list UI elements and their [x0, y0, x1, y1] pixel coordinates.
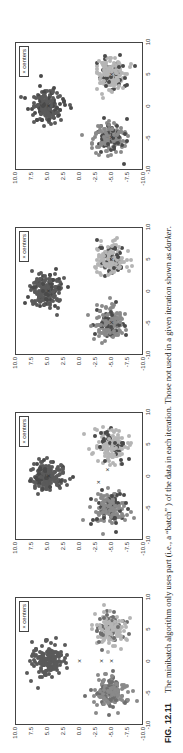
data-point — [96, 673, 100, 677]
data-point — [124, 501, 128, 505]
data-point — [119, 637, 123, 641]
data-point — [39, 74, 43, 78]
y-tick-label: 10.0 — [12, 727, 18, 745]
data-point — [81, 518, 85, 522]
data-point — [124, 625, 128, 629]
data-point — [28, 479, 32, 483]
data-point — [102, 261, 106, 265]
x-tick-label: -5 — [145, 313, 151, 333]
x-tick-label: 10 — [145, 32, 151, 52]
data-point — [58, 663, 62, 667]
y-tick-label: -7.5 — [124, 727, 130, 745]
legend-label: centers — [21, 234, 27, 254]
data-point — [52, 294, 56, 298]
data-point — [99, 431, 103, 435]
data-point — [97, 334, 101, 338]
data-point — [116, 711, 120, 715]
data-point — [118, 53, 122, 57]
data-point — [132, 516, 136, 520]
data-point — [122, 629, 126, 633]
data-point — [92, 337, 96, 341]
legend-marker-icon: × — [21, 69, 27, 74]
data-point — [63, 656, 67, 660]
data-point — [94, 711, 98, 715]
data-point — [44, 662, 48, 666]
data-point — [112, 266, 116, 270]
data-point — [69, 106, 73, 110]
center-marker-icon: × — [107, 659, 114, 663]
data-point — [98, 445, 102, 449]
data-point — [110, 244, 114, 248]
data-point — [89, 324, 93, 328]
data-point — [62, 276, 66, 280]
data-point — [71, 475, 75, 479]
x-tick-label: 0 — [145, 651, 151, 671]
data-point — [112, 121, 116, 125]
data-point — [57, 299, 61, 303]
y-tick-label: 10.0 — [12, 542, 18, 560]
y-tick-label: 0.0 — [76, 542, 82, 560]
data-point — [117, 316, 121, 320]
x-tick-label: 0 — [145, 96, 151, 116]
y-tick-label: 2.5 — [60, 542, 66, 560]
data-point — [124, 333, 128, 337]
data-point — [88, 505, 92, 509]
data-point — [116, 625, 120, 629]
data-point — [40, 118, 44, 122]
y-tick-label: -5.0 — [108, 172, 114, 190]
data-point — [109, 56, 113, 60]
data-point — [95, 67, 99, 71]
y-tick-label: -7.5 — [124, 357, 130, 375]
data-point — [120, 462, 124, 466]
center-marker-icon: × — [44, 289, 51, 293]
center-marker-icon: × — [107, 320, 114, 324]
data-point — [53, 643, 57, 647]
data-point — [93, 434, 97, 438]
data-point — [133, 64, 137, 68]
data-point — [110, 127, 114, 131]
data-point — [95, 87, 99, 91]
data-point — [23, 96, 27, 100]
data-point — [44, 638, 48, 642]
y-tick-label: 0.0 — [76, 172, 82, 190]
caption-end: . — [163, 226, 173, 228]
figure: 10.07.55.02.50.0-2.5-5.0-7.5-10.0-10-505… — [0, 0, 183, 753]
data-point — [58, 486, 62, 490]
data-point — [125, 513, 129, 517]
y-tick-label: 7.5 — [28, 542, 34, 560]
y-tick-label: -7.5 — [124, 542, 130, 560]
data-point — [117, 506, 121, 510]
x-tick-label: -10 — [145, 345, 151, 365]
data-point — [101, 692, 105, 696]
data-point — [57, 671, 61, 675]
data-point — [96, 459, 100, 463]
data-point — [131, 689, 135, 693]
data-point — [107, 641, 111, 645]
center-marker-icon: × — [107, 72, 114, 76]
data-point — [39, 112, 43, 116]
data-point — [95, 238, 99, 242]
x-tick-label: 10 — [145, 217, 151, 237]
data-point — [95, 703, 99, 707]
data-point — [91, 137, 95, 141]
data-point — [103, 443, 107, 447]
data-point — [116, 433, 120, 437]
data-point — [123, 76, 127, 80]
data-point — [121, 86, 125, 90]
data-point — [100, 341, 104, 345]
data-point — [39, 668, 43, 672]
x-tick-label: 5 — [145, 434, 151, 454]
caption-text: The minibatch algorithm only uses part (… — [163, 251, 173, 693]
x-tick-label: 0 — [145, 281, 151, 301]
data-point — [114, 530, 118, 534]
center-marker-icon: × — [104, 468, 111, 472]
data-point — [51, 299, 55, 303]
data-point — [43, 469, 47, 473]
data-point — [61, 471, 65, 475]
data-point — [63, 479, 67, 483]
data-point — [83, 694, 87, 698]
data-point — [113, 56, 117, 60]
data-point — [114, 521, 118, 525]
y-tick-label: 2.5 — [60, 172, 66, 190]
y-tick-label: 2.5 — [60, 727, 66, 745]
